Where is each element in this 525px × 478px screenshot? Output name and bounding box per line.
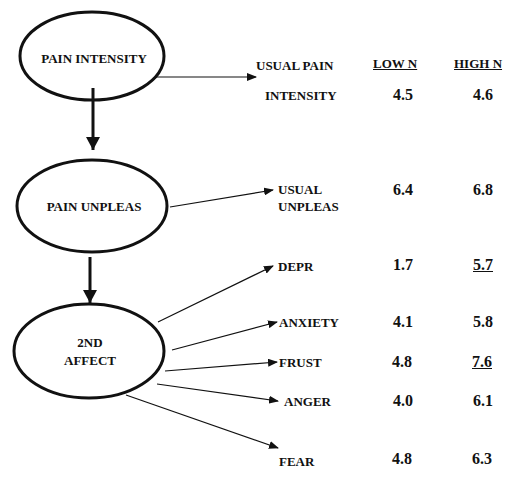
value-low-depr: 1.7 <box>393 256 413 274</box>
value-high-frust: 7.6 <box>472 353 492 371</box>
row-label-usual-pain-intensity: USUAL PAIN <box>256 57 333 74</box>
row-label-usual-unpleas-line1: USUAL <box>278 181 339 198</box>
node-2nd-affect-label: 2ND AFFECT <box>40 334 140 370</box>
node-pain-intensity-label: PAIN INTENSITY <box>30 50 158 68</box>
node-pain-unpleas-label: PAIN UNPLEAS <box>30 198 158 216</box>
row-label-frust: FRUST <box>279 354 322 371</box>
value-low-anxiety: 4.1 <box>393 313 413 331</box>
row-label-usual-unpleas: USUAL UNPLEAS <box>278 181 339 215</box>
value-low-usual-pain-intensity: 4.5 <box>393 86 413 104</box>
value-high-fear: 6.3 <box>472 450 492 468</box>
column-header-low-n: LOW N <box>373 56 417 72</box>
node-2nd-affect-line1: 2ND <box>40 334 140 352</box>
value-low-fear: 4.8 <box>392 450 412 468</box>
value-low-usual-unpleas: 6.4 <box>393 181 413 199</box>
edge-to-frust <box>165 362 277 371</box>
edge-to-anger <box>157 384 278 401</box>
value-high-usual-pain-intensity: 4.6 <box>473 86 493 104</box>
row-label-usual-unpleas-line2: UNPLEAS <box>278 198 339 215</box>
value-low-frust: 4.8 <box>392 353 412 371</box>
value-high-usual-unpleas: 6.8 <box>473 181 493 199</box>
edge-to-anxiety <box>172 322 277 350</box>
row-label-anxiety: ANXIETY <box>279 314 339 331</box>
column-header-high-n: HIGH N <box>454 56 502 72</box>
node-2nd-affect-line2: AFFECT <box>40 352 140 370</box>
row-label-depr: DEPR <box>278 258 313 275</box>
value-high-anger: 6.1 <box>473 392 493 410</box>
value-high-anxiety: 5.8 <box>473 313 493 331</box>
value-low-anger: 4.0 <box>393 392 413 410</box>
edge-to-depr <box>158 266 273 322</box>
arrowhead-down-icon <box>83 290 97 303</box>
row-label-fear: FEAR <box>279 453 314 470</box>
value-high-depr: 5.7 <box>473 256 493 274</box>
edge-to-usual-unpleas <box>170 190 273 207</box>
arrowhead-down-icon <box>86 137 100 150</box>
row-label-usual-pain-intensity-line2: INTENSITY <box>265 87 337 104</box>
row-label-anger: ANGER <box>284 393 331 410</box>
edge-to-fear <box>126 395 278 448</box>
